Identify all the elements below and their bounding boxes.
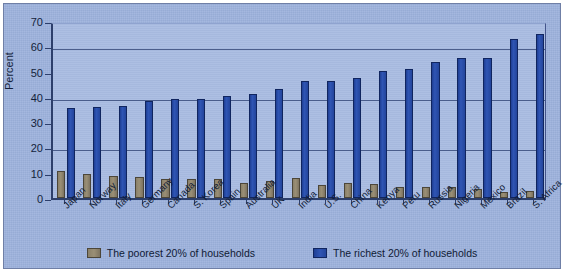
y-axis-tick-label: 0 <box>37 194 43 205</box>
legend-item: The poorest 20% of households <box>87 247 255 259</box>
legend-label: The poorest 20% of households <box>107 247 255 259</box>
legend-swatch-rich <box>313 248 327 258</box>
bar-richest <box>197 99 205 198</box>
bar-poorest <box>240 183 248 198</box>
bar-richest <box>301 81 309 198</box>
y-axis-tick-label: 20 <box>31 143 43 154</box>
gridline <box>53 100 545 101</box>
bar-richest <box>327 81 335 198</box>
y-axis-tick-label: 60 <box>31 42 43 53</box>
y-axis-tick-label: 40 <box>31 93 43 104</box>
chart-frame: 010203040506070 Percent JapanNorwayItaly… <box>3 3 561 269</box>
bar-poorest <box>57 171 65 198</box>
legend-item: The richest 20% of households <box>313 247 477 259</box>
legend-swatch-poor <box>87 248 101 258</box>
bar-poorest <box>344 183 352 198</box>
legend-label: The richest 20% of households <box>333 247 477 259</box>
bar-poorest <box>422 187 430 198</box>
bar-richest <box>249 94 257 198</box>
bar-richest <box>93 107 101 198</box>
gridline <box>53 49 545 50</box>
y-axis-tick-label: 10 <box>31 169 43 180</box>
y-axis-tick-label: 70 <box>31 17 43 28</box>
bar-richest <box>379 71 387 198</box>
bar-richest <box>67 108 75 198</box>
bar-richest <box>457 58 465 198</box>
bar-poorest <box>318 185 326 198</box>
chart-legend: The poorest 20% of householdsThe richest… <box>4 244 560 262</box>
y-axis-title: Percent <box>3 52 15 90</box>
bar-richest <box>353 78 361 198</box>
y-axis-tick <box>45 200 51 201</box>
y-axis-tick-label: 30 <box>31 118 43 129</box>
bar-richest <box>405 69 413 198</box>
bar-poorest <box>135 177 143 198</box>
bar-richest <box>483 58 491 198</box>
y-axis-labels: 010203040506070 <box>4 4 51 200</box>
bar-richest <box>431 62 439 198</box>
plot-area <box>51 23 546 200</box>
bar-richest <box>119 106 127 198</box>
y-axis-tick-label: 50 <box>31 68 43 79</box>
bar-richest <box>145 101 153 198</box>
bar-richest <box>536 34 544 198</box>
bar-richest <box>510 39 518 198</box>
bar-poorest <box>292 178 300 198</box>
